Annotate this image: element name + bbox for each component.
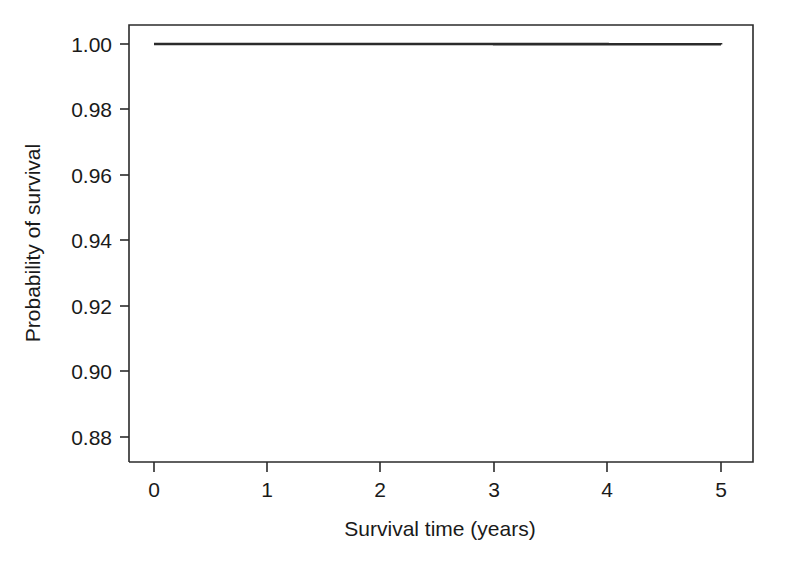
x-tick-label-4: 4 <box>601 478 613 501</box>
x-tick-label-5: 5 <box>715 478 727 501</box>
x-axis-title: Survival time (years) <box>344 517 535 540</box>
y-tick-label-1.00: 1.00 <box>71 33 112 56</box>
chart-page: 1.00 0.98 0.96 0.94 0.92 0.90 0.88 0 1 2… <box>0 0 793 567</box>
y-tick-label-0.98: 0.98 <box>71 98 112 121</box>
y-tick-label-0.96: 0.96 <box>71 164 112 187</box>
x-tick-label-3: 3 <box>488 478 500 501</box>
y-axis-title: Probability of survival <box>21 144 44 342</box>
y-tick-label-0.88: 0.88 <box>71 426 112 449</box>
y-tick-label-0.94: 0.94 <box>71 229 112 252</box>
y-tick-label-0.92: 0.92 <box>71 295 112 318</box>
x-tick-label-0: 0 <box>148 478 160 501</box>
chart-background <box>0 0 793 567</box>
y-tick-label-0.90: 0.90 <box>71 360 112 383</box>
x-tick-label-2: 2 <box>374 478 386 501</box>
survival-curve-chart: 1.00 0.98 0.96 0.94 0.92 0.90 0.88 0 1 2… <box>0 0 793 567</box>
x-tick-label-1: 1 <box>261 478 273 501</box>
